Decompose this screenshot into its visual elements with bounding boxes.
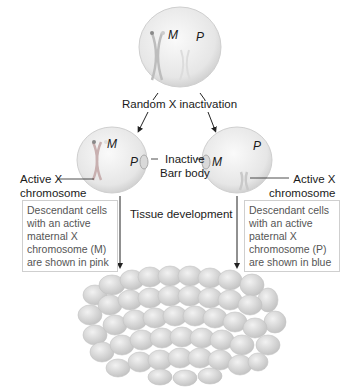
paternal-note-box: Descendant cells with an active paternal… bbox=[244, 200, 340, 272]
top-cell bbox=[139, 7, 221, 87]
arrow-left-icon bbox=[139, 112, 148, 130]
left-maternal-label: M bbox=[107, 137, 117, 151]
process-label: Random X inactivation bbox=[122, 97, 237, 111]
right-maternal-label: M bbox=[212, 155, 222, 169]
right-active-label: Active X chromosome bbox=[269, 172, 335, 200]
left-active-label: Active X chromosome bbox=[20, 172, 86, 200]
tissue-cells bbox=[78, 266, 286, 386]
right-paternal-label: P bbox=[253, 139, 261, 153]
barr-body-label: Inactive Barr body bbox=[160, 152, 210, 180]
arrow-right-icon bbox=[208, 112, 215, 130]
left-paternal-label: P bbox=[130, 155, 138, 169]
top-paternal-label: P bbox=[196, 30, 204, 44]
barr-body-icon bbox=[140, 155, 148, 169]
maternal-note-box: Descendant cells with an active maternal… bbox=[22, 200, 118, 272]
development-label: Tissue development bbox=[130, 207, 233, 221]
top-maternal-label: M bbox=[168, 28, 178, 42]
